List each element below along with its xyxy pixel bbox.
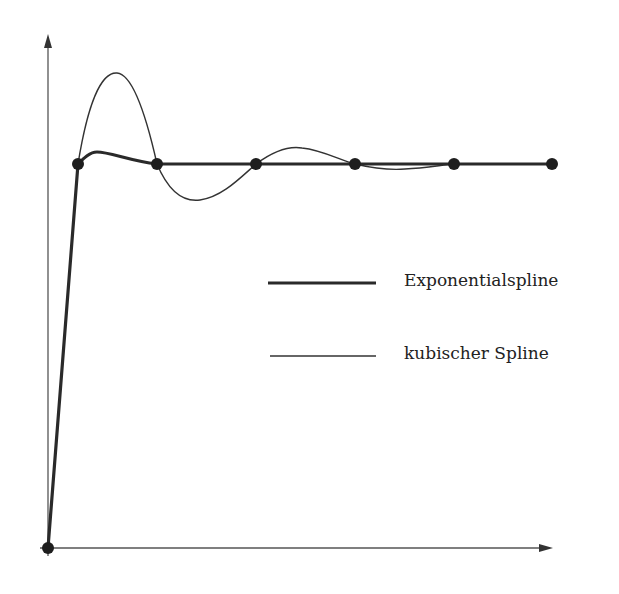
data-point-marker [72, 158, 84, 170]
y-axis-arrow-icon [44, 34, 52, 48]
data-point-marker [151, 158, 163, 170]
spline-chart [0, 0, 619, 594]
data-point-marker [250, 158, 262, 170]
axes [40, 34, 553, 556]
x-axis-arrow-icon [539, 544, 553, 552]
data-point-marker [546, 158, 558, 170]
data-point-marker [448, 158, 460, 170]
data-point-marker [349, 158, 361, 170]
cubic-spline-curve [48, 73, 552, 548]
data-point-marker [42, 542, 54, 554]
legend-label-exponential: Exponentialspline [404, 270, 558, 290]
legend-label-cubic: kubischer Spline [404, 343, 549, 363]
